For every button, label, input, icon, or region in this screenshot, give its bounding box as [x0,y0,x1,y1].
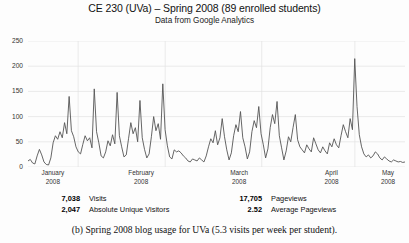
visits-line-chart [28,41,405,167]
stat-visits: 7,038Visits [48,193,107,204]
stat-average-pageviews-label: Average Pageviews [271,204,336,215]
chart-title: CE 230 (UVa) – Spring 2008 (89 enrolled … [0,2,409,14]
grid-lines [28,41,405,167]
stats-summary: 7,038Visits 2,047Absolute Unique Visitor… [0,193,409,217]
x-tick-month: April [325,169,338,176]
y-tick-label: 0 [19,163,23,171]
x-tick-label: January2008 [42,169,65,186]
x-tick-label: April2008 [324,169,338,186]
stat-visits-value: 7,038 [48,193,80,204]
y-tick-label: 200 [12,62,23,70]
stat-average-pageviews-value: 2.52 [228,204,262,215]
chart-subtitle: Data from Google Analytics [0,16,409,25]
x-tick-label: May2008 [381,169,395,186]
visits-series-line [28,59,405,165]
y-axis: 050100150200250 [0,34,26,174]
y-tick-label: 250 [12,37,23,45]
stat-visits-label: Visits [89,193,107,204]
x-tick-label: March2008 [230,169,248,186]
x-tick-year: 2008 [42,178,65,187]
x-tick-month: March [230,169,248,176]
stat-pageviews-value: 17,705 [228,193,262,204]
x-tick-year: 2008 [324,178,338,187]
stat-unique-visitors-value: 2,047 [48,204,80,215]
stat-pageviews: 17,705Pageviews [228,193,307,204]
x-tick-year: 2008 [230,178,248,187]
x-axis: January2008February2008March2008April200… [28,169,405,191]
x-tick-year: 2008 [128,178,154,187]
stat-pageviews-label: Pageviews [271,193,307,204]
x-tick-year: 2008 [381,178,395,187]
plot-area [28,41,405,167]
y-tick-label: 50 [16,138,23,146]
x-tick-month: May [382,169,394,176]
figure-caption: (b) Spring 2008 blog usage for UVa (5.3 … [0,224,409,235]
figure-container: CE 230 (UVa) – Spring 2008 (89 enrolled … [0,0,409,243]
x-tick-label: February2008 [128,169,154,186]
x-tick-month: February [128,169,154,176]
stat-average-pageviews: 2.52Average Pageviews [228,204,336,215]
y-tick-label: 100 [12,113,23,121]
stat-unique-visitors-label: Absolute Unique Visitors [89,204,169,215]
x-tick-month: January [42,169,65,176]
stat-unique-visitors: 2,047Absolute Unique Visitors [48,204,169,215]
y-tick-label: 150 [12,87,23,95]
